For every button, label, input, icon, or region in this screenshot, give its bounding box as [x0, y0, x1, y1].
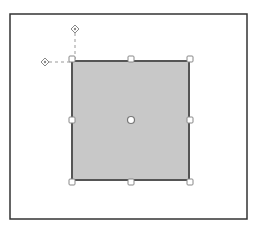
- horizontal-guide-dot-icon: [44, 61, 46, 63]
- resize-handle-bottom-center-icon[interactable]: [128, 179, 134, 185]
- diagram-canvas: [0, 0, 260, 228]
- diagram-svg: [0, 0, 260, 228]
- resize-handle-top-right-icon[interactable]: [187, 56, 193, 62]
- resize-handle-bottom-right-icon[interactable]: [187, 179, 193, 185]
- center-handle-icon[interactable]: [128, 117, 135, 124]
- vertical-guide-dot-icon: [74, 28, 76, 30]
- resize-handle-top-center-icon[interactable]: [128, 56, 134, 62]
- resize-handle-middle-left-icon[interactable]: [69, 117, 75, 123]
- resize-handle-top-left-icon[interactable]: [69, 56, 75, 62]
- resize-handle-middle-right-icon[interactable]: [187, 117, 193, 123]
- resize-handle-bottom-left-icon[interactable]: [69, 179, 75, 185]
